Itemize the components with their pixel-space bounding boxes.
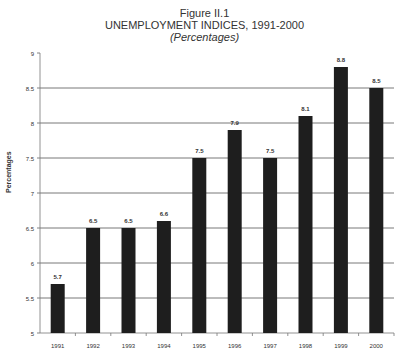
bar-1997: [263, 158, 277, 333]
bar-1994: [157, 221, 171, 333]
data-label: 6.5: [124, 218, 133, 224]
bar-chart: 55.566.577.588.595.719916.519926.519936.…: [0, 0, 409, 363]
bar-1999: [334, 67, 348, 333]
bar-2000: [369, 88, 383, 333]
bar-1993: [122, 228, 136, 333]
y-tick-label: 5.5: [26, 296, 35, 302]
x-tick-label: 1993: [122, 343, 136, 349]
data-label: 8.5: [372, 78, 381, 84]
bar-1996: [228, 130, 242, 333]
y-tick-label: 9: [31, 51, 35, 57]
bar-1998: [299, 116, 313, 333]
y-tick-label: 7: [31, 191, 35, 197]
bar-1995: [192, 158, 206, 333]
bar-1991: [51, 284, 65, 333]
x-tick-label: 1998: [299, 343, 313, 349]
data-label: 6.6: [160, 211, 169, 217]
y-tick-label: 7.5: [26, 156, 35, 162]
y-tick-label: 8.5: [26, 86, 35, 92]
x-tick-label: 1995: [193, 343, 207, 349]
data-label: 8.1: [301, 106, 310, 112]
data-label: 8.8: [337, 57, 346, 63]
y-tick-label: 5: [31, 331, 35, 337]
x-tick-label: 1992: [86, 343, 100, 349]
x-tick-label: 1996: [228, 343, 242, 349]
x-tick-label: 1999: [334, 343, 348, 349]
y-tick-label: 6: [31, 261, 35, 267]
data-label: 5.7: [54, 274, 63, 280]
data-label: 6.5: [89, 218, 98, 224]
x-tick-label: 2000: [370, 343, 384, 349]
x-tick-label: 1994: [157, 343, 171, 349]
data-label: 7.5: [266, 148, 275, 154]
bar-1992: [86, 228, 100, 333]
y-tick-label: 8: [31, 121, 35, 127]
data-label: 7.5: [195, 148, 204, 154]
x-tick-label: 1991: [51, 343, 65, 349]
x-tick-label: 1997: [263, 343, 277, 349]
y-tick-label: 6.5: [26, 226, 35, 232]
data-label: 7.9: [231, 120, 240, 126]
